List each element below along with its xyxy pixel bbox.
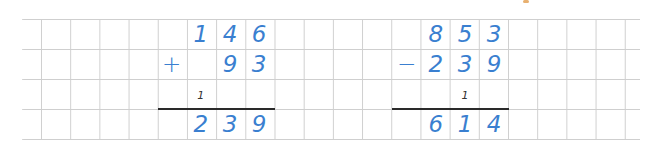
digit: 5 xyxy=(450,19,479,49)
digit: 2 xyxy=(421,49,450,79)
result-digit: 6 xyxy=(421,109,450,139)
digit xyxy=(186,49,215,79)
carry-digit xyxy=(215,79,244,109)
addition-result-row: 2 3 9 xyxy=(186,109,274,139)
digit: 3 xyxy=(450,49,479,79)
digit: 9 xyxy=(215,49,244,79)
borrow-digit xyxy=(421,79,450,109)
plus-operator: + xyxy=(157,49,186,79)
addition-top-row: 1 4 6 xyxy=(186,19,274,49)
borrow-digit: 1 xyxy=(450,79,479,109)
digit: 1 xyxy=(186,19,215,49)
result-digit: 4 xyxy=(480,109,509,139)
carry-digit xyxy=(245,79,274,109)
minus-operator: − xyxy=(392,49,421,79)
digit: 6 xyxy=(245,19,274,49)
result-digit: 3 xyxy=(215,109,244,139)
digit: 9 xyxy=(480,49,509,79)
digit: 4 xyxy=(215,19,244,49)
addition-bottom-row: + 9 3 xyxy=(157,49,274,79)
subtraction-borrow-row: 1 xyxy=(421,79,509,109)
result-digit: 9 xyxy=(245,109,274,139)
digit: 3 xyxy=(245,49,274,79)
page-margin xyxy=(0,0,24,163)
subtraction-result-row: 6 1 4 xyxy=(421,109,509,139)
graph-paper-grid xyxy=(22,19,640,140)
digit: 3 xyxy=(480,19,509,49)
result-digit: 1 xyxy=(450,109,479,139)
borrow-digit xyxy=(480,79,509,109)
digit: 8 xyxy=(421,19,450,49)
subtraction-bottom-row: − 2 3 9 xyxy=(392,49,509,79)
paper-mark xyxy=(523,0,529,3)
subtraction-top-row: 8 5 3 xyxy=(421,19,509,49)
result-digit: 2 xyxy=(186,109,215,139)
addition-carry-row: 1 xyxy=(186,79,274,109)
carry-digit: 1 xyxy=(186,79,215,109)
